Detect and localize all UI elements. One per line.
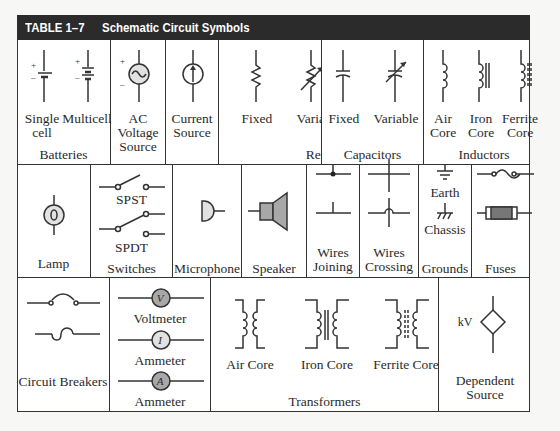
ammeter-i-glyph: I <box>110 333 210 347</box>
label-fuses: Fuses <box>472 262 529 276</box>
label-iron-core-transformer: Iron Core <box>287 358 367 372</box>
label-fixed-capacitor: Fixed <box>318 112 370 126</box>
schematic-symbols-table: TABLE 1–7 Schematic Circuit Symbols +–+–… <box>17 15 530 412</box>
label-speaker: Speaker <box>242 262 306 276</box>
label-lamp: Lamp <box>17 257 90 271</box>
label-dependent-source: Dependent Source <box>449 374 521 402</box>
svg-text:–: – <box>119 79 125 89</box>
current-source-icon <box>166 40 219 165</box>
dependent-source-glyph: kV <box>455 315 475 329</box>
cell-inductors: Air Core Iron Core Ferrite Core Inductor… <box>424 40 530 165</box>
label-ammeter-2: Ammeter <box>110 395 210 409</box>
cell-ac-source: +– AC Voltage Source <box>111 40 166 165</box>
label-iron-core-inductor: Iron Core <box>462 112 500 140</box>
cell-meters: V I A Voltmeter Ammeter Ammeter <box>110 278 211 412</box>
cell-current-source: Current Source <box>166 40 219 165</box>
table-title: Schematic Circuit Symbols <box>102 15 250 40</box>
label-ferrite-core-transformer: Ferrite Core <box>365 358 447 372</box>
label-air-core-transformer: Air Core <box>211 358 289 372</box>
label-spdt: SPDT <box>91 241 172 255</box>
cell-wires-joining: Wires Joining <box>307 165 360 278</box>
cell-speaker: Speaker <box>242 165 307 278</box>
label-chassis: Chassis <box>419 223 471 237</box>
svg-text:+: + <box>31 60 36 70</box>
label-ammeter-1: Ammeter <box>110 354 210 368</box>
cell-batteries: +–+– Single cell Multicell Batteries <box>17 40 111 165</box>
svg-text:–: – <box>30 72 36 82</box>
label-single-cell: Single cell <box>17 112 67 140</box>
cell-capacitors: Fixed Variable Capacitors <box>322 40 424 165</box>
label-current-source: Current Source <box>166 112 218 140</box>
label-air-core-inductor: Air Core <box>424 112 462 140</box>
cell-dependent-source: kV Dependent Source <box>439 278 530 412</box>
group-capacitors: Capacitors <box>322 148 423 162</box>
cell-grounds: Earth Chassis Grounds <box>419 165 472 278</box>
voltmeter-glyph: V <box>110 291 210 305</box>
circuit-breaker-icons <box>17 278 110 412</box>
cell-lamp: Lamp <box>17 165 91 278</box>
label-spst: SPST <box>91 193 172 207</box>
group-batteries: Batteries <box>17 148 110 162</box>
label-fixed-resistor: Fixed <box>233 112 281 126</box>
table-number: TABLE 1–7 <box>25 15 85 40</box>
label-wires-joining: Wires Joining <box>307 246 359 274</box>
cell-transformers: Air Core Iron Core Ferrite Core Transfor… <box>211 278 439 412</box>
label-multicell: Multicell <box>61 112 113 126</box>
group-switches: Switches <box>91 262 172 276</box>
label-variable-capacitor: Variable <box>370 112 422 126</box>
label-wires-crossing: Wires Crossing <box>360 246 418 274</box>
transformer-icons <box>211 278 439 412</box>
cell-fuses: Fuses <box>472 165 530 278</box>
label-ac-voltage-source: AC Voltage Source <box>111 112 165 154</box>
group-inductors: Inductors <box>439 148 529 162</box>
svg-text:+: + <box>120 56 125 66</box>
label-earth: Earth <box>419 186 471 200</box>
cell-wires-crossing: Wires Crossing <box>360 165 419 278</box>
label-ferrite-core-inductor: Ferrite Core <box>500 112 540 140</box>
group-transformers: Transformers <box>211 395 438 409</box>
svg-text:–: – <box>74 72 80 82</box>
label-microphone: Microphone <box>173 262 241 276</box>
table-header: TABLE 1–7 Schematic Circuit Symbols <box>17 15 530 40</box>
cell-resistors: Fixed Variable Resistors <box>219 40 322 165</box>
label-circuit-breakers: Circuit Breakers <box>17 375 109 389</box>
label-voltmeter: Voltmeter <box>110 312 210 326</box>
svg-text:+: + <box>75 56 80 66</box>
cell-switches: SPST SPDT Switches <box>91 165 173 278</box>
ammeter-a-glyph: A <box>110 374 210 388</box>
group-grounds: Grounds <box>419 262 471 276</box>
cell-circuit-breakers: Circuit Breakers <box>17 278 110 412</box>
cell-microphone: Microphone <box>173 165 242 278</box>
